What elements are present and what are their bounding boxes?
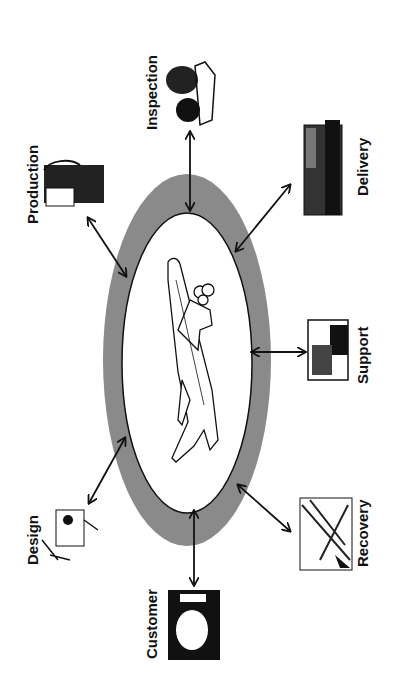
label-recovery: Recovery <box>354 499 371 567</box>
label-inspection: Inspection <box>143 55 160 130</box>
design-drafting-icon <box>42 510 98 560</box>
recovery-icon <box>300 498 352 570</box>
label-customer: Customer <box>143 589 160 659</box>
arrow-delivery <box>236 185 290 251</box>
label-support: Support <box>354 327 371 385</box>
delivery-truck-icon <box>304 120 342 215</box>
production-icon <box>44 161 104 206</box>
label-delivery: Delivery <box>354 138 371 196</box>
lifecycle-diagram <box>0 0 406 695</box>
support-computer-icon <box>308 320 348 380</box>
label-design: Design <box>24 515 41 565</box>
arrow-recovery <box>238 485 290 531</box>
customer-portrait-icon <box>168 590 220 660</box>
label-production: Production <box>24 145 41 224</box>
inspection-icon <box>166 62 215 125</box>
